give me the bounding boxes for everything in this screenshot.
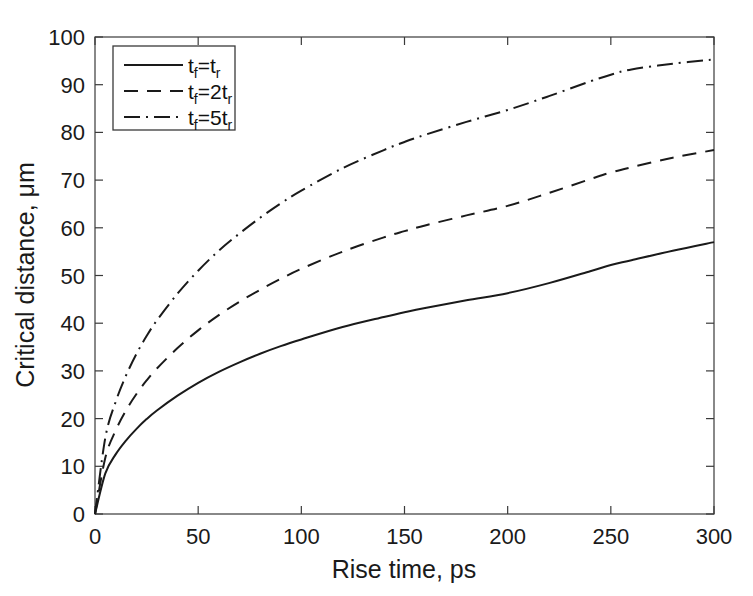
x-axis-label: Rise time, ps [332, 555, 476, 583]
y-axis-label: Critical distance, μm [11, 162, 39, 388]
y-tick-label: 20 [61, 407, 85, 432]
y-axis-tick-labels: 0102030405060708090100 [48, 25, 85, 527]
x-tick-label: 250 [592, 524, 629, 549]
y-tick-label: 70 [61, 168, 85, 193]
x-axis-tick-labels: 050100150200250300 [89, 524, 732, 549]
y-tick-label: 60 [61, 216, 85, 241]
y-tick-label: 90 [61, 73, 85, 98]
x-tick-label: 100 [283, 524, 320, 549]
x-tick-label: 300 [696, 524, 733, 549]
x-tick-label: 50 [186, 524, 210, 549]
y-tick-label: 100 [48, 25, 85, 50]
y-tick-label: 40 [61, 311, 85, 336]
chart-figure: 050100150200250300 010203040506070809010… [0, 0, 753, 596]
y-tick-label: 0 [73, 502, 85, 527]
y-tick-label: 10 [61, 454, 85, 479]
x-tick-label: 200 [489, 524, 526, 549]
y-tick-label: 50 [61, 264, 85, 289]
y-tick-label: 80 [61, 120, 85, 145]
x-tick-label: 150 [386, 524, 423, 549]
x-tick-label: 0 [89, 524, 101, 549]
y-tick-label: 30 [61, 359, 85, 384]
line-chart-svg: 050100150200250300 010203040506070809010… [0, 0, 753, 596]
series-curve-1 [95, 150, 714, 514]
chart-legend[interactable]: tf=trtf=2trtf=5tr [113, 46, 235, 133]
